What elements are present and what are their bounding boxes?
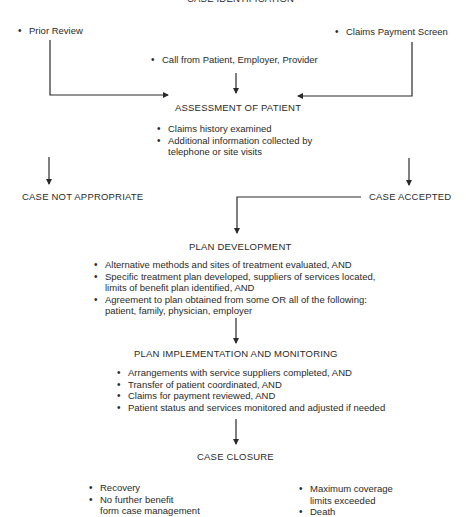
closure-item: No further benefitform case management: [89, 494, 200, 517]
case-not-appropriate: CASE NOT APPROPRIATE: [22, 191, 143, 202]
plan-development-item: Agreement to plan obtained from some OR …: [94, 294, 375, 317]
source-item: Call from Patient, Employer, Provider: [151, 54, 318, 66]
plan-implementation-item: Patient status and services monitored an…: [117, 402, 385, 414]
plan-development-list: Alternative methods and sites of treatme…: [94, 259, 375, 317]
item-line: limits of benefit plan identified, AND: [105, 282, 254, 293]
plan-development-heading: PLAN DEVELOPMENT: [189, 241, 291, 252]
plan-development-item: Alternative methods and sites of treatme…: [94, 259, 375, 271]
item-line: patient, family, physician, employer: [105, 305, 252, 316]
plan-implementation-list: Arrangements with service suppliers comp…: [117, 367, 385, 413]
assessment-heading: ASSESSMENT OF PATIENT: [175, 102, 301, 113]
assessment-list: Claims history examined Additional infor…: [157, 123, 312, 158]
plan-implementation-item: Arrangements with service suppliers comp…: [117, 367, 385, 379]
plan-implementation-heading: PLAN IMPLEMENTATION AND MONITORING: [134, 348, 338, 359]
closure-left-list: Recovery No further benefitform case man…: [89, 482, 200, 517]
item-line: limits exceeded: [310, 495, 375, 506]
source-item: Claims Payment Screen: [335, 26, 448, 38]
plan-implementation-item: Transfer of patient coordinated, AND: [117, 379, 385, 391]
assessment-item: Claims history examined: [157, 123, 312, 135]
plan-implementation-item: Claims for payment reviewed, AND: [117, 390, 385, 402]
closure-item: Recovery: [89, 482, 200, 494]
closure-right-list: Maximum coveragelimits exceeded Death: [299, 483, 393, 517]
source-call: Call from Patient, Employer, Provider: [151, 54, 318, 66]
accepted-to-plan-connector: [237, 197, 361, 233]
assessment-item-text: telephone or site visits: [168, 146, 262, 157]
claims-screen-connector: [298, 42, 412, 96]
item-line: Maximum coverage: [310, 483, 393, 494]
prior-review-connector: [50, 40, 168, 95]
source-item: Prior Review: [18, 25, 83, 37]
assessment-item: Additional information collected by: [157, 135, 312, 147]
item-line: form case management: [100, 505, 200, 516]
case-closure-heading: CASE CLOSURE: [197, 451, 274, 462]
item-line: Agreement to plan obtained from some OR …: [105, 294, 367, 305]
closure-item: Death: [299, 506, 393, 517]
plan-development-item: Specific treatment plan developed, suppl…: [94, 271, 375, 294]
case-accepted: CASE ACCEPTED: [369, 191, 451, 202]
item-line: Specific treatment plan developed, suppl…: [105, 271, 375, 282]
diagram-title: CASE IDENTIFICATION: [187, 0, 294, 4]
source-prior-review: Prior Review: [18, 25, 83, 37]
assessment-item-continuation: telephone or site visits: [157, 146, 312, 158]
source-claims-payment: Claims Payment Screen: [335, 26, 448, 38]
item-line: No further benefit: [100, 494, 173, 505]
closure-item: Maximum coveragelimits exceeded: [299, 483, 393, 506]
